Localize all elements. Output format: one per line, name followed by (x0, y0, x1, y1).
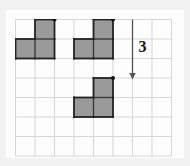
shape-cell (74, 39, 94, 59)
shape-cell (74, 98, 94, 118)
shapes-and-arrow (15, 19, 190, 160)
diagram-canvas: 3 (0, 0, 190, 166)
shape-cell (35, 20, 55, 40)
translation-magnitude-label: 3 (139, 39, 147, 55)
arrow-head-icon (129, 73, 135, 80)
original-left-shape (16, 19, 57, 59)
shape-cell (94, 20, 114, 40)
shape-cell (94, 98, 114, 118)
vertex-dot-marker (111, 76, 115, 80)
grid-area (15, 19, 172, 156)
shape-cell (94, 78, 114, 98)
image-shape (74, 76, 115, 117)
shape-cell (35, 39, 55, 59)
translation-arrow (129, 20, 135, 80)
pre-image-shape (74, 19, 115, 59)
shape-cell (94, 39, 114, 59)
shape-cell (16, 39, 36, 59)
